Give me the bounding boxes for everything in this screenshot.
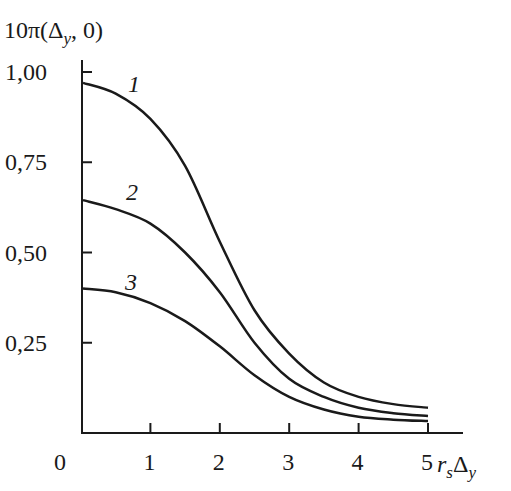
x-tick-label: 5 — [421, 449, 433, 475]
curve-label-2: 2 — [126, 179, 138, 205]
curve-label-3: 3 — [124, 269, 137, 295]
curve-label-1: 1 — [128, 71, 140, 97]
x-tick-label: 2 — [213, 449, 225, 475]
y-tick-label: 0,75 — [5, 149, 47, 175]
y-tick-label: 0,25 — [5, 330, 47, 356]
y-tick-label: 0,50 — [5, 240, 47, 266]
y-ticks: 0,250,500,751,00 — [5, 59, 92, 356]
x-tick-label: 1 — [143, 449, 155, 475]
x-tick-label: 4 — [352, 449, 364, 475]
x-axis-title: rsΔy — [437, 451, 476, 482]
y-axis-title: 10π(Δy, 0) — [4, 17, 103, 48]
x-ticks: 012345 — [54, 423, 433, 475]
chart: 012345 0,250,500,751,00 123 10π(Δy, 0) r… — [0, 0, 511, 491]
curves: 123 — [83, 71, 428, 421]
curve-2 — [83, 200, 428, 416]
curve-1 — [83, 83, 428, 408]
y-tick-label: 1,00 — [5, 59, 47, 85]
x-tick-label: 0 — [54, 449, 66, 475]
x-tick-label: 3 — [282, 449, 294, 475]
